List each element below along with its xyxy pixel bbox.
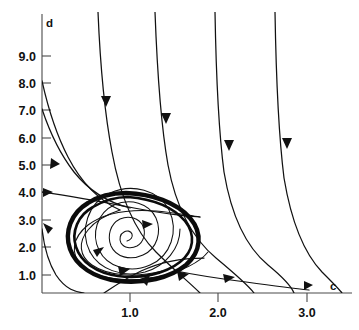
y-tick-label-5: 5.0 xyxy=(19,159,36,173)
x-tick-label-3: 3.0 xyxy=(298,306,315,320)
y-tick-label-6: 6.0 xyxy=(19,132,36,146)
phase-portrait-figure: 9.0 8.0 7.0 6.0 5.0 4.0 3.0 2.0 1.0 1.0 … xyxy=(0,0,359,330)
x-tick-label-2: 2.0 xyxy=(209,306,226,320)
x-tick-label-1: 1.0 xyxy=(121,306,138,320)
y-tick-label-2: 2.0 xyxy=(19,241,36,255)
y-tick-label-4: 4.0 xyxy=(19,186,36,200)
y-tick-label-9: 9.0 xyxy=(19,50,36,64)
y-tick-label-7: 7.0 xyxy=(19,104,36,118)
y-tick-label-8: 8.0 xyxy=(19,77,36,91)
y-axis-label: d xyxy=(46,17,53,29)
y-tick-label-1: 1.0 xyxy=(19,269,36,283)
phase-portrait-svg: 9.0 8.0 7.0 6.0 5.0 4.0 3.0 2.0 1.0 1.0 … xyxy=(0,0,359,330)
y-tick-label-3: 3.0 xyxy=(19,214,36,228)
